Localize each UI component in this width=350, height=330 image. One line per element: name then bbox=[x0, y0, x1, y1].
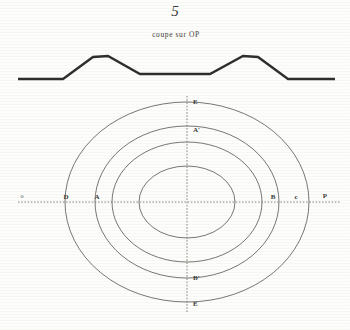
label-point-a: A bbox=[94, 193, 99, 201]
label-point-e-bottom: E bbox=[193, 300, 198, 308]
label-origin-o: o bbox=[21, 193, 24, 199]
label-point-d: D bbox=[63, 193, 68, 201]
label-point-p: P bbox=[323, 192, 328, 200]
terrain-profile bbox=[18, 56, 335, 79]
label-point-c: c bbox=[294, 193, 297, 201]
label-point-a-prime: A' bbox=[193, 126, 200, 134]
engraved-plate: 5 coupe sur OP o D A B c P E A' B' E bbox=[0, 0, 350, 330]
label-point-e-top: E bbox=[193, 98, 198, 106]
label-point-b-prime: B' bbox=[193, 274, 200, 282]
label-point-b: B bbox=[271, 193, 276, 201]
section-caption: coupe sur OP bbox=[152, 30, 200, 39]
figure-number: 5 bbox=[171, 3, 179, 19]
